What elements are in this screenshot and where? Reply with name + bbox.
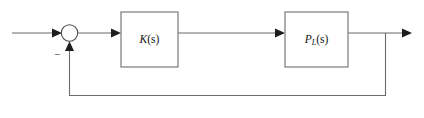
input-signal-line — [12, 29, 62, 38]
controller-input-arrow-icon — [111, 29, 121, 38]
plant-label-arg: (s) — [316, 32, 328, 45]
output-signal-line — [348, 29, 412, 38]
feedback-sign-label: − — [54, 48, 60, 60]
sum-junction — [61, 25, 77, 41]
controller-label-arg: (s) — [147, 32, 159, 45]
error-signal-line — [78, 29, 121, 38]
block-diagram-canvas: − K(s) PL(s) — [0, 0, 424, 118]
controller-block-label: K(s) — [139, 32, 160, 45]
feedback-arrow-icon — [65, 41, 74, 51]
input-arrow-icon — [52, 29, 62, 38]
plant-input-arrow-icon — [275, 29, 285, 38]
control-signal-line — [178, 29, 285, 38]
plant-label-main: P — [304, 32, 312, 44]
output-arrow-icon — [402, 29, 412, 38]
block-diagram-svg: − K(s) PL(s) — [0, 0, 424, 118]
